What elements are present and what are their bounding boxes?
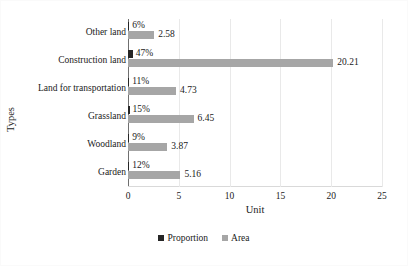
bar-proportion[interactable] (128, 162, 129, 170)
bar-proportion[interactable] (128, 22, 129, 30)
bar-proportion[interactable] (128, 106, 130, 114)
plot-area: 6%2.5847%20.2111%4.7315%6.459%3.8712%5.1… (128, 19, 382, 187)
bar-value-label-area: 2.58 (158, 29, 175, 39)
bar-value-label-area: 4.73 (180, 85, 197, 95)
bar-value-label-proportion: 11% (132, 76, 149, 86)
category-label: Other land (8, 27, 126, 38)
bar-area[interactable] (128, 59, 333, 67)
chart-container: Other landConstruction landLand for tran… (0, 0, 408, 266)
bar-proportion[interactable] (128, 78, 129, 86)
y-axis-category-labels: Other landConstruction landLand for tran… (5, 19, 126, 187)
chart-legend: Proportion Area (1, 232, 407, 244)
bar-value-label-area: 5.16 (184, 169, 201, 179)
chart-row: 9%3.87 (128, 131, 408, 159)
bar-value-label-area: 3.87 (171, 141, 188, 151)
x-axis-tick: 20 (326, 190, 336, 202)
x-axis-tick-labels: 0510152025 (128, 190, 382, 204)
chart-row: 47%20.21 (128, 47, 408, 75)
bar-value-label-area: 6.45 (198, 113, 215, 123)
bar-area[interactable] (128, 115, 194, 123)
legend-label-area: Area (231, 232, 249, 244)
x-axis-title: Unit (128, 203, 382, 216)
chart-row: 11%4.73 (128, 75, 408, 103)
category-label: Garden (8, 167, 126, 178)
bar-area[interactable] (128, 31, 154, 39)
x-axis-tick: 0 (126, 190, 131, 202)
bar-value-label-proportion: 9% (132, 132, 145, 142)
bar-proportion[interactable] (128, 50, 133, 58)
legend-swatch-area-icon (222, 235, 228, 241)
bar-value-label-proportion: 47% (136, 48, 153, 58)
chart-row: 12%5.16 (128, 159, 408, 187)
x-axis-tick: 15 (276, 190, 286, 202)
bar-proportion[interactable] (128, 134, 129, 142)
chart-row: 6%2.58 (128, 19, 408, 47)
bar-area[interactable] (128, 143, 167, 151)
bar-value-label-proportion: 15% (133, 104, 150, 114)
x-axis-tick: 5 (176, 190, 181, 202)
y-axis-title: Types (4, 95, 17, 145)
chart-row: 15%6.45 (128, 103, 408, 131)
bar-area[interactable] (128, 87, 176, 95)
x-axis-tick: 25 (377, 190, 387, 202)
legend-label-proportion: Proportion (167, 232, 208, 244)
legend-item-proportion[interactable]: Proportion (158, 232, 208, 244)
bar-area[interactable] (128, 171, 180, 179)
category-label: Land for transportation (8, 83, 126, 94)
category-label: Construction land (8, 55, 126, 66)
legend-swatch-proportion-icon (158, 235, 164, 241)
bar-value-label-area: 20.21 (337, 57, 358, 67)
legend-item-area[interactable]: Area (222, 232, 249, 244)
x-axis-tick: 10 (225, 190, 235, 202)
bar-value-label-proportion: 6% (132, 20, 145, 30)
category-label: Woodland (8, 139, 126, 150)
bar-value-label-proportion: 12% (132, 160, 149, 170)
category-label: Grassland (8, 111, 126, 122)
